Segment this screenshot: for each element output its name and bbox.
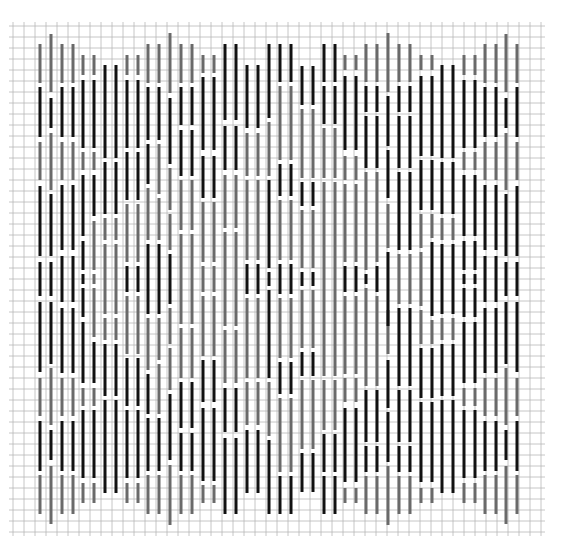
- light-stitch: [495, 142, 498, 180]
- dark-stitch: [180, 130, 183, 176]
- light-stitch: [312, 290, 315, 348]
- light-stitch: [72, 142, 75, 180]
- light-stitch: [376, 44, 379, 82]
- dark-stitch: [474, 274, 477, 284]
- light-stitch: [126, 483, 129, 503]
- light-stitch: [191, 234, 194, 324]
- stitch-column: [355, 55, 358, 503]
- dark-stitch: [463, 322, 466, 383]
- stitch-column: [441, 65, 444, 493]
- light-stitch: [93, 55, 96, 75]
- light-stitch: [420, 55, 423, 70]
- stitch-column: [290, 44, 293, 514]
- dark-stitch: [50, 262, 53, 296]
- dark-stitch: [323, 44, 326, 82]
- light-stitch: [126, 296, 129, 354]
- dark-stitch: [115, 162, 118, 214]
- dark-stitch: [334, 434, 337, 472]
- light-stitch: [180, 44, 183, 83]
- dark-stitch: [398, 116, 401, 168]
- dark-stitch: [474, 410, 477, 478]
- light-stitch: [137, 296, 140, 354]
- dark-stitch: [484, 421, 487, 471]
- light-stitch: [158, 144, 161, 194]
- dark-stitch: [323, 476, 326, 514]
- light-stitch: [82, 55, 85, 75]
- dark-stitch: [213, 408, 216, 481]
- dark-stitch: [463, 80, 466, 148]
- dark-stitch: [82, 274, 85, 284]
- light-stitch: [323, 182, 326, 376]
- dark-stitch: [474, 241, 477, 270]
- dark-stitch: [82, 175, 85, 236]
- dark-stitch: [169, 98, 172, 164]
- dark-stitch: [224, 126, 227, 170]
- light-stitch: [202, 266, 205, 292]
- dark-stitch: [137, 266, 140, 292]
- dark-stitch: [279, 362, 282, 394]
- dark-stitch: [409, 172, 412, 250]
- light-stitch: [191, 475, 194, 514]
- light-stitch: [202, 296, 205, 356]
- dark-stitch: [495, 308, 498, 373]
- light-stitch: [463, 55, 466, 75]
- bargello-chart: Bargello stitch chart: [0, 0, 562, 550]
- stitch-column: [61, 44, 64, 514]
- dark-stitch: [137, 358, 140, 406]
- light-stitch: [279, 200, 282, 260]
- light-stitch: [202, 485, 205, 503]
- dark-stitch: [409, 86, 412, 112]
- dark-stitch: [147, 374, 150, 414]
- light-stitch: [516, 378, 519, 416]
- light-stitch: [61, 44, 64, 83]
- dark-stitch: [301, 66, 304, 105]
- light-stitch: [463, 483, 466, 503]
- dark-stitch: [484, 308, 487, 373]
- dark-stitch: [61, 308, 64, 373]
- dark-stitch: [484, 87, 487, 137]
- dark-stitch: [409, 308, 412, 386]
- dark-stitch: [202, 360, 205, 402]
- light-stitch: [441, 318, 444, 340]
- light-stitch: [516, 475, 519, 514]
- light-stitch: [104, 318, 107, 340]
- light-stitch: [39, 378, 42, 416]
- light-stitch: [169, 214, 172, 250]
- light-stitch: [484, 475, 487, 514]
- light-stitch: [202, 55, 205, 73]
- dark-stitch: [126, 266, 129, 292]
- dark-stitch: [334, 44, 337, 82]
- light-stitch: [50, 34, 53, 92]
- light-stitch: [505, 466, 508, 524]
- light-stitch: [257, 298, 260, 378]
- light-stitch: [213, 296, 216, 356]
- stitch-column: [420, 55, 423, 503]
- dark-stitch: [474, 80, 477, 148]
- light-stitch: [431, 320, 434, 344]
- light-stitch: [301, 290, 304, 348]
- light-stitch: [180, 328, 183, 378]
- light-stitch: [93, 483, 96, 503]
- light-stitch: [365, 476, 368, 514]
- dark-stitch: [516, 87, 519, 137]
- light-stitch: [213, 266, 216, 292]
- dark-stitch: [376, 116, 379, 168]
- dark-stitch: [301, 182, 304, 206]
- dark-stitch: [50, 302, 53, 364]
- light-stitch: [484, 142, 487, 180]
- dark-stitch: [39, 186, 42, 256]
- dark-stitch: [268, 272, 271, 286]
- dark-stitch: [495, 87, 498, 137]
- dark-stitch: [268, 180, 271, 268]
- light-stitch: [365, 172, 368, 270]
- light-stitch: [104, 218, 107, 240]
- light-stitch: [39, 142, 42, 180]
- light-stitch: [268, 122, 271, 176]
- dark-stitch: [344, 266, 347, 292]
- dark-stitch: [279, 264, 282, 294]
- dark-stitch: [398, 390, 401, 442]
- dark-stitch: [516, 421, 519, 471]
- dark-stitch: [505, 194, 508, 256]
- stitch-column: [82, 55, 85, 503]
- dark-stitch: [452, 65, 455, 158]
